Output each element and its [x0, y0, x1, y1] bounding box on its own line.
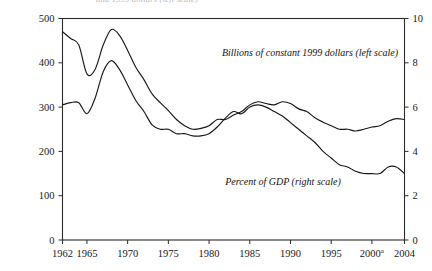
left-tick-label: 400 [39, 57, 55, 68]
series-line-2 [63, 61, 405, 174]
x-tick-label: 2000a [360, 247, 385, 259]
series-annotations: Billions of constant 1999 dollars (left … [222, 47, 399, 188]
x-axis-ticks: 196219651970197519801985199019952000a200… [52, 240, 416, 259]
right-tick-label: 4 [413, 146, 419, 157]
annotation-left-scale-series: Billions of constant 1999 dollars (left … [222, 47, 399, 59]
left-tick-label: 0 [49, 235, 54, 246]
left-axis-ticks: 0100200300400500 [39, 13, 63, 246]
right-tick-label: 8 [413, 57, 418, 68]
x-tick-label: 1990 [280, 248, 301, 259]
x-tick-label: 1980 [199, 248, 220, 259]
annotation-right-scale-series: Percent of GDP (right scale) [224, 176, 341, 188]
x-tick-label: 1965 [76, 248, 97, 259]
x-tick-label: 1962 [52, 248, 73, 259]
series-line-1 [63, 29, 405, 131]
left-tick-label: 100 [39, 190, 55, 201]
left-tick-label: 500 [39, 13, 55, 24]
right-tick-label: 0 [413, 235, 418, 246]
left-tick-label: 300 [39, 102, 55, 113]
x-tick-label: 2004 [394, 248, 416, 259]
x-tick-label: 1985 [239, 248, 260, 259]
right-tick-label: 10 [413, 13, 424, 24]
x-tick-label: 1995 [321, 248, 342, 259]
left-tick-label: 200 [39, 146, 55, 157]
x-tick-label: 1970 [117, 248, 138, 259]
right-tick-label: 2 [413, 190, 418, 201]
dual-axis-line-chart: 0100200300400500 0246810 196219651970197… [0, 0, 432, 271]
right-tick-label: 6 [413, 102, 418, 113]
x-tick-label: 1975 [158, 248, 179, 259]
right-axis-ticks: 0246810 [405, 13, 424, 246]
figure-container: and 1999 dollars (left scale) 0100200300… [0, 0, 432, 271]
